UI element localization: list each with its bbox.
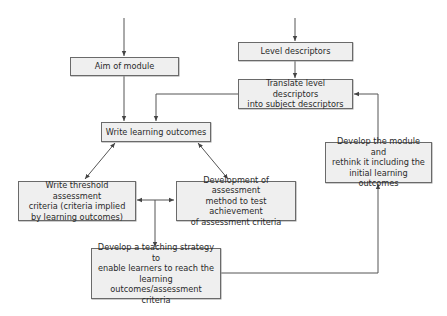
node-label: Write learning outcomes [106, 127, 206, 138]
node-label: Aim of module [95, 61, 155, 72]
node-level-descriptors: Level descriptors [238, 42, 353, 61]
node-threshold-criteria: Write threshold assessment criteria (cri… [18, 181, 136, 221]
node-label: Develop a teaching strategy to enable le… [95, 242, 217, 305]
arrow-translate-outcomes [156, 94, 238, 121]
node-write-learning-outcomes: Write learning outcomes [101, 122, 211, 142]
node-assessment-method: Development of assessment method to test… [176, 181, 296, 221]
node-label: Level descriptors [261, 46, 331, 57]
arrow-rethink-translate [354, 94, 378, 142]
arrow-outcomes-assessment [198, 143, 228, 179]
node-rethink-module: Develop the module and rethink it includ… [325, 142, 432, 183]
node-label: Translate level descriptors into subject… [242, 78, 349, 110]
node-teaching-strategy: Develop a teaching strategy to enable le… [91, 248, 221, 299]
node-translate-descriptors: Translate level descriptors into subject… [238, 79, 353, 109]
node-label: Develop the module and rethink it includ… [329, 136, 428, 189]
arrow-outcomes-threshold [85, 143, 115, 179]
node-label: Development of assessment method to test… [180, 175, 292, 228]
node-label: Write threshold assessment criteria (cri… [22, 180, 132, 222]
node-aim-of-module: Aim of module [70, 57, 179, 76]
